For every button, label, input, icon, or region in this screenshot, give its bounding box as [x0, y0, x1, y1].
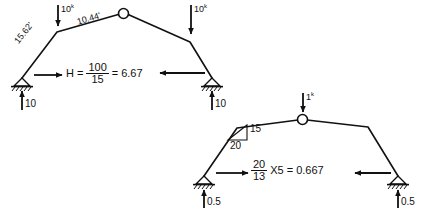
equation-fraction: 100 15	[86, 62, 108, 85]
horizontal-reaction-equation: H = 100 15 = 6.67	[66, 62, 143, 85]
equation-result: 0.667	[296, 165, 324, 176]
slope-rise-label: 15	[250, 124, 261, 134]
top-right-load-label: 10k	[194, 3, 207, 14]
top-right-pin-support-icon	[201, 78, 223, 91]
load-unit-k: k	[71, 3, 74, 9]
top-right-reaction-label: 10	[215, 99, 226, 109]
frame-drawing	[0, 0, 423, 214]
fraction-denominator: 13	[251, 171, 267, 182]
top-left-load-label: 10k	[61, 3, 74, 14]
top-left-reaction-label: 10	[25, 99, 36, 109]
equation-equals: =	[287, 165, 293, 176]
load-unit-k: k	[311, 91, 314, 97]
hinge-circle-icon	[119, 9, 129, 19]
bottom-right-reaction-label: 0.5	[401, 197, 415, 207]
equation-equals-1: =	[77, 68, 83, 79]
figure-canvas: 10k 10k 15.62' 10.44' H = 100 15 = 6.67 …	[0, 0, 423, 214]
load-unit-k: k	[204, 3, 207, 9]
top-left-pin-support-icon	[11, 78, 33, 91]
bottom-left-reaction-label: 0.5	[207, 197, 221, 207]
bottom-equation-fraction: 20 13	[251, 159, 267, 182]
slope-run-label: 20	[230, 141, 241, 151]
equation-equals-2: =	[112, 68, 118, 79]
equation-multiplier: X5	[270, 165, 283, 176]
bottom-apex-load-label: 1k	[306, 91, 314, 102]
bottom-right-pin-support-icon	[387, 176, 409, 189]
bottom-left-pin-support-icon	[193, 176, 215, 189]
equation-result: 6.67	[121, 68, 142, 79]
bottom-hinge-circle-icon	[298, 115, 308, 125]
fraction-denominator: 15	[86, 74, 108, 85]
bottom-reaction-equation: 20 13 X5 = 0.667	[251, 159, 324, 182]
equation-lhs: H	[66, 68, 74, 79]
